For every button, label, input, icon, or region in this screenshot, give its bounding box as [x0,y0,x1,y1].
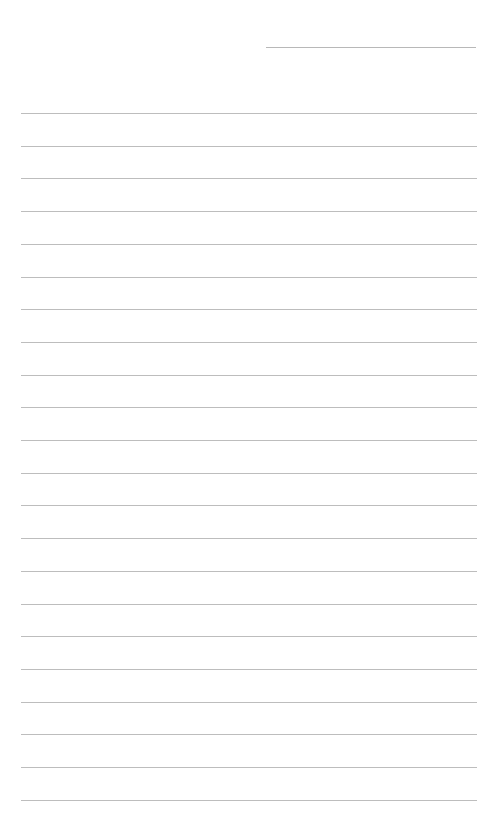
ruled-line [21,244,477,245]
ruled-line [21,702,477,703]
ruled-line [21,342,477,343]
ruled-line [21,636,477,637]
ruled-line [21,604,477,605]
ruled-line [21,211,477,212]
ruled-line [21,473,477,474]
ruled-line [21,375,477,376]
ruled-line [21,538,477,539]
ruled-line [21,407,477,408]
ruled-line [21,113,477,114]
ruled-line [21,309,477,310]
ruled-line [21,277,477,278]
date-line [266,47,476,48]
ruled-line [21,146,477,147]
ruled-line [21,571,477,572]
ruled-line [21,800,477,801]
ruled-line [21,669,477,670]
ruled-line [21,440,477,441]
ruled-line [21,734,477,735]
ruled-line [21,178,477,179]
ruled-line [21,767,477,768]
lined-paper-page [0,0,500,824]
ruled-line [21,505,477,506]
